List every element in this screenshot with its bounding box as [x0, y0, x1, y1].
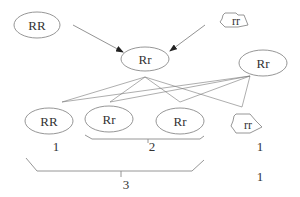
parent-rr-dominant-node: RR [14, 12, 60, 38]
parent-left-label: RR [28, 18, 46, 33]
offspring-rr-hetero-2: Rr [156, 108, 204, 134]
f1-second-node: Rr [239, 50, 287, 76]
offspring-2-label: Rr [174, 114, 188, 129]
cross-lines [62, 76, 250, 107]
bracket-group-3 [26, 158, 204, 171]
f1-second-label: Rr [257, 56, 271, 71]
f1-node: Rr [121, 47, 169, 71]
offspring-0-label: RR [40, 114, 58, 129]
offspring-1-label: Rr [103, 112, 117, 127]
count-group-3: 3 [123, 177, 130, 192]
offspring-rr-recessive: rr [231, 114, 262, 133]
offspring-rr-hetero-1: Rr [85, 106, 133, 132]
genetic-cross-diagram: RR rr Rr Rr RR Rr Rr [0, 0, 300, 197]
parent-right-label: rr [232, 14, 240, 28]
count-group-1-recessive: 1 [257, 169, 264, 184]
count-rr-recessive: 1 [257, 139, 264, 154]
arrow-left [73, 25, 123, 52]
arrow-right [170, 25, 205, 51]
count-group-2: 2 [149, 139, 156, 154]
f1-label: Rr [139, 52, 153, 67]
count-rr-dominant: 1 [53, 139, 60, 154]
offspring-3-label: rr [244, 118, 252, 132]
bracket-group-2 [85, 135, 204, 139]
offspring-rr-dominant: RR [25, 108, 73, 134]
parent-rr-recessive-node: rr [220, 13, 248, 28]
